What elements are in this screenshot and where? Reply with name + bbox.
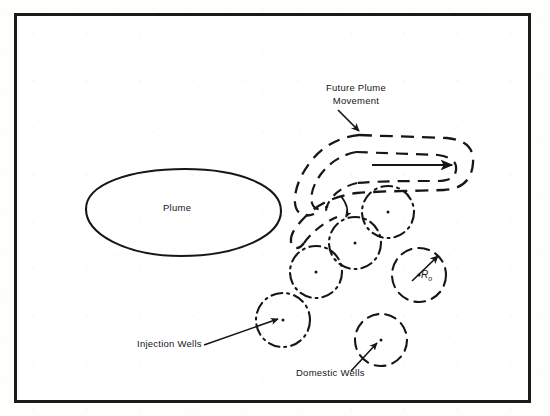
well-center-dot: [354, 242, 357, 245]
domestic-wells-label: Domestic Wells: [296, 367, 365, 380]
radius-subscript: o: [428, 275, 432, 282]
leader-future-plume: [338, 110, 359, 131]
well-center-dot: [387, 211, 390, 214]
future-plume-curl-arrow: [341, 196, 347, 217]
diagram-vectors: [0, 0, 550, 416]
well-center-dot: [380, 339, 383, 342]
future-plume-label-line2: Movement: [310, 95, 402, 108]
figure-canvas: Future Plume Movement Plume Injection We…: [0, 0, 550, 416]
plume-label: Plume: [163, 202, 191, 215]
well-center-dot: [282, 319, 285, 322]
injection-wells-label: Injection Wells: [137, 338, 202, 351]
radius-label: Ro: [421, 268, 432, 283]
future-plume-region: [291, 135, 473, 248]
future-plume-label: Future Plume Movement: [310, 82, 402, 108]
well-center-dot: [315, 271, 318, 274]
leader-injection-wells: [204, 319, 278, 345]
future-plume-label-line1: Future Plume: [310, 82, 402, 95]
domestic-well-centers: [380, 274, 421, 342]
injection-well-group: [256, 186, 414, 347]
